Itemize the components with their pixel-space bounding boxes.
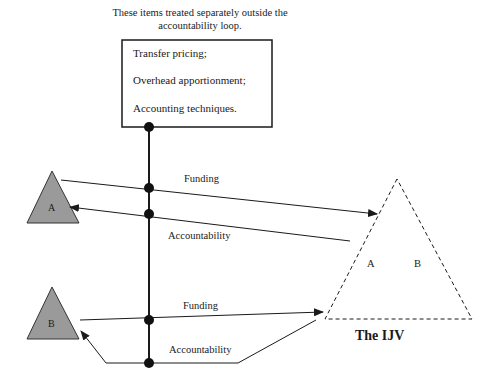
funding-b-arrow bbox=[80, 312, 323, 320]
accountability-b-label: Accountability bbox=[169, 345, 231, 356]
party-b-triangle bbox=[27, 287, 79, 339]
funding-a-label: Funding bbox=[184, 174, 219, 185]
note-line-2: accountability loop. bbox=[80, 19, 320, 32]
funding-a-arrow bbox=[61, 180, 377, 214]
junction-dot bbox=[144, 183, 154, 193]
accountability-a-label: Accountability bbox=[168, 231, 230, 242]
funding-b-label: Funding bbox=[183, 301, 218, 312]
accountability-b-arrow bbox=[81, 320, 316, 363]
ijv-triangle bbox=[325, 179, 472, 319]
party-a-label: A bbox=[48, 203, 55, 213]
junction-dot bbox=[144, 122, 154, 132]
excluded-items-note: These items treated separately outside t… bbox=[80, 6, 320, 32]
box-item-accounting: Accounting techniques. bbox=[133, 103, 237, 114]
note-line-1: These items treated separately outside t… bbox=[80, 6, 320, 19]
junction-dot bbox=[144, 315, 154, 325]
ijv-inner-a-label: A bbox=[367, 259, 375, 270]
party-b-label: B bbox=[48, 319, 55, 329]
ijv-inner-b-label: B bbox=[414, 259, 421, 270]
box-item-transfer-pricing: Transfer pricing; bbox=[133, 48, 207, 59]
diagram-canvas bbox=[0, 0, 494, 388]
party-a-triangle bbox=[27, 171, 79, 223]
box-item-overhead: Overhead apportionment; bbox=[133, 75, 246, 86]
ijv-title: The IJV bbox=[355, 328, 404, 344]
junction-dot bbox=[144, 358, 154, 368]
junction-dot bbox=[144, 209, 154, 219]
